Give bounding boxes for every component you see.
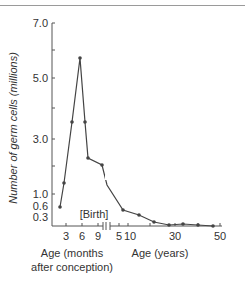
x-tick-9: 9	[95, 230, 101, 242]
x-tick-30: 30	[169, 230, 181, 242]
x-tick-3: 3	[63, 230, 69, 242]
germ-cell-series-line	[60, 58, 213, 226]
x-tick-5: 5	[116, 230, 122, 242]
x-tick-50: 50	[214, 230, 226, 242]
y-axis-title: Number of germ cells (millions)	[7, 52, 19, 204]
y-tick-7: 7.0	[33, 17, 48, 29]
x-axis-title-postnatal: Age (years)	[132, 247, 189, 259]
y-tick-3: 3.0	[33, 133, 48, 145]
y-tick-1: 1.0	[33, 188, 48, 200]
y-tick-0-3: 0.3	[33, 211, 48, 223]
germ-cell-chart: 7.0 5.0 3.0 1.0 0.6 0.3 3 6 9 5 10 30 50…	[0, 0, 245, 285]
x-axis-title-prenatal-line1: Age (months	[41, 247, 104, 259]
x-tick-6: 6	[79, 230, 85, 242]
x-tick-10: 10	[124, 230, 136, 242]
y-tick-5: 5.0	[33, 72, 48, 84]
x-axis-title-prenatal-line2: after conception)	[31, 261, 113, 273]
birth-annotation: [Birth]	[80, 208, 109, 220]
